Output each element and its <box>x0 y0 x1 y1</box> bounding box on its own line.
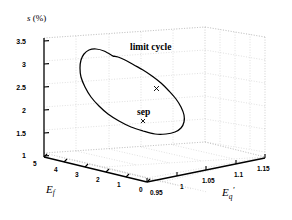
z-tick-label: 3 <box>6 61 26 68</box>
annotation-sep: sep <box>137 108 150 118</box>
y-tick-label: 3 <box>75 172 79 179</box>
z-tick-label: 1 <box>6 152 26 159</box>
x-tick-label: 0.95 <box>150 190 163 197</box>
z-tick-label: 2 <box>6 107 26 114</box>
x-tick-label: 1.05 <box>202 178 215 185</box>
annotation-limit-cycle: limit cycle <box>130 43 171 53</box>
x-axis-title: Eq' <box>222 186 234 200</box>
y-tick-label: 2 <box>96 177 100 184</box>
z-tick-label: 3.5 <box>6 38 26 45</box>
y-axis-title-base: E <box>46 183 53 195</box>
y-tick-label: 4 <box>54 167 58 174</box>
sep-marker-x <box>141 119 145 123</box>
z-axis-ticks <box>44 41 49 156</box>
figure-3d-plot: s (%) 3.5 3 2.5 2 1.5 1 5 4 3 2 1 0 0.95… <box>0 0 292 220</box>
x-axis-title-prime: ' <box>232 185 234 195</box>
curve-marker-x <box>154 86 159 91</box>
x-tick-label: 1.1 <box>234 172 243 179</box>
back-right-wall-grid <box>205 27 265 152</box>
back-left-wall-grid <box>44 27 205 153</box>
z-tick-label: 1.5 <box>6 130 26 137</box>
z-tick-label: 2.5 <box>6 84 26 91</box>
y-axis-title-sub: f <box>53 188 55 197</box>
y-axis-title: Ef <box>46 184 55 197</box>
z-axis-title: s (%) <box>27 14 46 23</box>
y-tick-label: 0 <box>139 187 143 194</box>
y-tick-label: 1 <box>117 182 121 189</box>
y-tick-label: 5 <box>33 161 37 168</box>
x-tick-label: 1 <box>180 184 184 191</box>
x-axis-title-base: E <box>222 186 229 198</box>
z-axis-title-unit: (%) <box>31 13 47 23</box>
x-tick-label: 1.15 <box>257 166 270 173</box>
